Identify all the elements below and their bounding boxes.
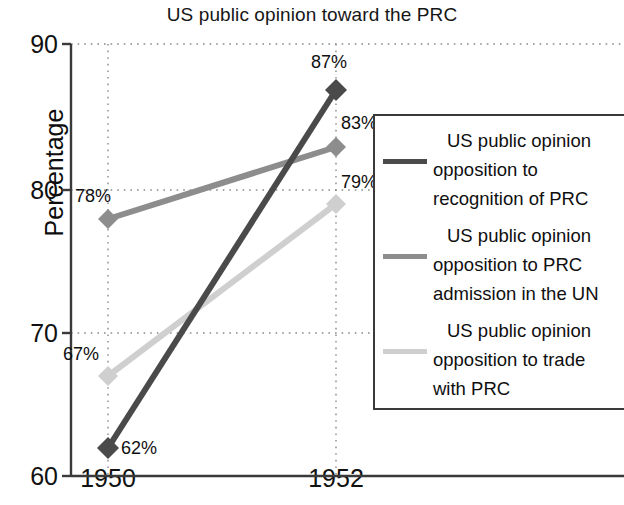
legend-label-trade: US public opinion opposition to trade wi… <box>427 316 591 403</box>
data-label-62: 62% <box>121 438 157 459</box>
legend-entry-recognition[interactable]: US public opinion opposition to recognit… <box>375 126 624 213</box>
legend-label-un-admission: US public opinion opposition to PRC admi… <box>427 221 599 308</box>
legend-swatch-recognition <box>383 159 427 164</box>
series-line-trade <box>108 204 336 376</box>
legend-label-trade-line3: with PRC <box>433 374 591 403</box>
legend-swatch-trade <box>383 349 427 354</box>
line-chart: US public opinion toward the PRC Percent… <box>0 0 624 505</box>
legend-label-un-admission-line1: US public opinion <box>433 221 599 250</box>
legend-label-un-admission-line2: opposition to PRC <box>433 250 599 279</box>
data-label-83: 83% <box>341 113 377 134</box>
data-label-67: 67% <box>63 344 99 365</box>
legend-entry-un-admission[interactable]: US public opinion opposition to PRC admi… <box>375 221 624 308</box>
legend-entry-trade[interactable]: US public opinion opposition to trade wi… <box>375 316 624 403</box>
chart-legend: US public opinion opposition to recognit… <box>373 114 624 410</box>
legend-label-recognition: US public opinion opposition to recognit… <box>427 126 591 213</box>
series-marker-un-admission-1950 <box>98 209 118 229</box>
data-label-79: 79% <box>341 172 377 193</box>
legend-label-trade-line1: US public opinion <box>433 316 591 345</box>
series-line-un-admission <box>108 147 336 219</box>
data-label-78: 78% <box>75 186 111 207</box>
legend-swatch-un-admission <box>383 254 427 259</box>
series-marker-un-admission-1952 <box>326 137 346 157</box>
data-label-87: 87% <box>311 52 347 73</box>
series-line-recognition <box>108 90 336 448</box>
legend-label-recognition-line3: recognition of PRC <box>433 184 591 213</box>
legend-label-un-admission-line3: admission in the UN <box>433 279 599 308</box>
legend-label-recognition-line1: US public opinion <box>433 126 591 155</box>
legend-label-recognition-line2: opposition to <box>433 155 591 184</box>
legend-label-trade-line2: opposition to trade <box>433 345 591 374</box>
